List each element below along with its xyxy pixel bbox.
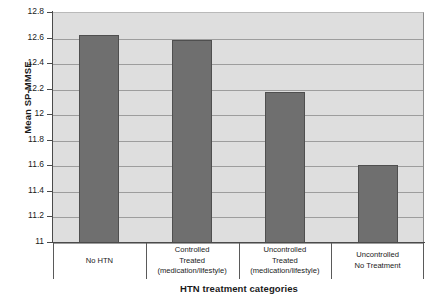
- category-label-band: No HTNControlledTreated(medication/lifes…: [53, 243, 425, 279]
- y-tick-label: 11.2: [0, 211, 44, 220]
- category-label-line: (medication/lifestyle): [146, 266, 239, 277]
- y-tick-label: 12.2: [0, 84, 44, 93]
- y-tick-mark: [47, 114, 53, 115]
- y-axis-title: Mean SP-MMSE: [22, 23, 33, 173]
- y-tick-label: 11.4: [0, 186, 44, 195]
- category-label-line: Controlled: [146, 245, 239, 256]
- category-label-line: (medication/lifestyle): [239, 266, 332, 277]
- y-tick-label: 12.4: [0, 58, 44, 67]
- category-label: No HTN: [53, 256, 146, 267]
- x-axis-title: HTN treatment categories: [53, 283, 425, 294]
- y-axis-line: [52, 11, 53, 243]
- category-label: UncontrolledTreated(medication/lifestyle…: [239, 245, 332, 277]
- y-tick-label: 11.6: [0, 160, 44, 169]
- y-tick-label: 12: [0, 109, 44, 118]
- category-label: UncontrolledNo Treatment: [331, 250, 424, 271]
- bar-chart: Mean SP-MMSE 12.812.612.412.21211.811.61…: [0, 0, 435, 303]
- y-tick-mark: [47, 140, 53, 141]
- bar: [358, 165, 398, 243]
- y-tick-mark: [47, 63, 53, 64]
- category-label-line: No HTN: [53, 256, 146, 267]
- bar: [265, 92, 305, 243]
- y-tick-mark: [47, 191, 53, 192]
- category-label: ControlledTreated(medication/lifestyle): [146, 245, 239, 277]
- y-tick-label: 11: [0, 237, 44, 246]
- category-label-line: Treated: [239, 256, 332, 267]
- category-label-line: Uncontrolled: [239, 245, 332, 256]
- y-tick-label: 12.8: [0, 7, 44, 16]
- bar: [172, 40, 212, 243]
- y-tick-mark: [47, 12, 53, 13]
- y-tick-mark: [47, 165, 53, 166]
- y-tick-mark: [47, 38, 53, 39]
- y-tick-label: 12.6: [0, 33, 44, 42]
- y-tick-mark: [47, 89, 53, 90]
- category-label-line: Uncontrolled: [331, 250, 424, 261]
- y-tick-label: 11.8: [0, 135, 44, 144]
- plot-area: [53, 12, 424, 242]
- y-tick-mark: [47, 216, 53, 217]
- category-label-line: No Treatment: [331, 261, 424, 272]
- bar: [79, 35, 119, 243]
- category-label-line: Treated: [146, 256, 239, 267]
